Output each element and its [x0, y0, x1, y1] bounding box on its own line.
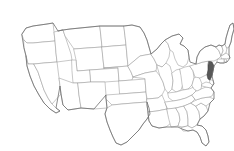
us-map-svg[interactable]	[0, 0, 234, 151]
us-locator-map-figure	[0, 0, 234, 151]
state-KS[interactable]	[119, 79, 146, 94]
state-NM[interactable]	[78, 82, 107, 109]
state-SD[interactable]	[102, 45, 128, 68]
state-CO[interactable]	[90, 68, 119, 82]
state-WY[interactable]	[74, 47, 104, 71]
state-ND[interactable]	[100, 26, 126, 47]
state-OR[interactable]	[24, 40, 57, 64]
